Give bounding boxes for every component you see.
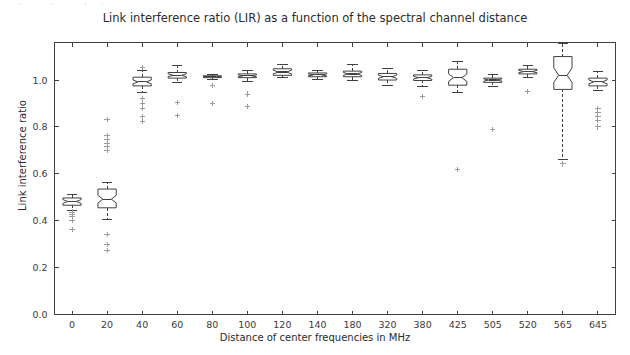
outlier-marker bbox=[210, 101, 215, 106]
x-tick-label: 505 bbox=[484, 319, 502, 330]
box-plot-item bbox=[98, 117, 116, 253]
outlier-marker bbox=[245, 91, 250, 96]
box-plot-item bbox=[63, 194, 81, 232]
outlier-marker bbox=[490, 127, 495, 132]
outlier-marker bbox=[69, 218, 74, 223]
box-plot-item bbox=[308, 70, 326, 79]
outlier-marker bbox=[140, 101, 145, 106]
outlier-marker bbox=[69, 227, 74, 232]
outlier-marker bbox=[104, 248, 109, 253]
outlier-marker bbox=[104, 148, 109, 153]
box-plot-item bbox=[378, 68, 396, 85]
plot-area: 0.00.20.40.60.81.0 020406080100120140180… bbox=[0, 0, 630, 355]
box-plot-item bbox=[414, 70, 432, 99]
outlier-marker bbox=[210, 83, 215, 88]
box-series bbox=[63, 44, 607, 254]
outlier-marker bbox=[104, 117, 109, 122]
y-tick-label: 0.0 bbox=[32, 309, 47, 320]
x-tick-label: 100 bbox=[238, 319, 256, 330]
y-axis-title: Link interference ratio bbox=[17, 46, 28, 266]
x-tick-label: 0 bbox=[69, 319, 75, 330]
x-tick-label: 40 bbox=[136, 319, 148, 330]
x-tick-label: 565 bbox=[554, 319, 572, 330]
y-tick-label: 0.6 bbox=[32, 168, 47, 179]
outlier-marker bbox=[595, 118, 600, 123]
chart-title: Link interference ratio (LIR) as a funct… bbox=[0, 11, 630, 25]
outlier-marker bbox=[140, 96, 145, 101]
x-tick-label: 20 bbox=[101, 319, 113, 330]
outlier-marker bbox=[560, 161, 565, 166]
box-plot-item bbox=[519, 66, 537, 94]
x-tick-label: 60 bbox=[171, 319, 183, 330]
box-plot-item bbox=[273, 64, 291, 77]
x-tick-label: 320 bbox=[379, 319, 397, 330]
box-plot-item bbox=[133, 65, 151, 125]
box-plot-item bbox=[449, 61, 467, 171]
outlier-marker bbox=[175, 100, 180, 105]
x-tick-label: 180 bbox=[343, 319, 361, 330]
box-plot-item bbox=[554, 44, 572, 167]
y-tick-label: 0.4 bbox=[32, 215, 47, 226]
y-tick-label: 0.8 bbox=[32, 121, 47, 132]
box-plot-item bbox=[589, 72, 607, 130]
outlier-marker bbox=[104, 232, 109, 237]
x-tick-label: 120 bbox=[273, 319, 291, 330]
x-axis-title: Distance of center frequencies in MHz bbox=[0, 332, 630, 343]
outlier-marker bbox=[104, 242, 109, 247]
x-tick-label: 425 bbox=[449, 319, 467, 330]
x-tick-label: 140 bbox=[308, 319, 326, 330]
box-plot-item bbox=[484, 75, 502, 132]
outlier-marker bbox=[455, 167, 460, 172]
box-plot-item bbox=[203, 74, 221, 106]
boxplot-figure: · · ·· Link interference ratio (LIR) as … bbox=[0, 0, 630, 355]
x-tick-label: 520 bbox=[519, 319, 537, 330]
y-tick-label: 1.0 bbox=[32, 75, 47, 86]
outlier-marker bbox=[175, 113, 180, 118]
y-axis-ticks: 0.00.20.40.60.81.0 bbox=[32, 75, 615, 320]
outlier-marker bbox=[140, 119, 145, 124]
box-plot-item bbox=[343, 64, 361, 80]
x-tick-label: 645 bbox=[589, 319, 607, 330]
outlier-marker bbox=[525, 89, 530, 94]
outlier-marker bbox=[140, 65, 145, 70]
outlier-marker bbox=[420, 94, 425, 99]
top-text-fragment: · · ·· bbox=[0, 0, 630, 9]
outlier-marker bbox=[245, 104, 250, 109]
outlier-marker bbox=[140, 114, 145, 119]
box-plot-item bbox=[238, 71, 256, 109]
x-tick-label: 380 bbox=[414, 319, 432, 330]
y-tick-label: 0.2 bbox=[32, 262, 47, 273]
outlier-marker bbox=[595, 124, 600, 129]
x-tick-label: 80 bbox=[206, 319, 218, 330]
box-plot-item bbox=[168, 66, 186, 118]
outlier-marker bbox=[140, 106, 145, 111]
